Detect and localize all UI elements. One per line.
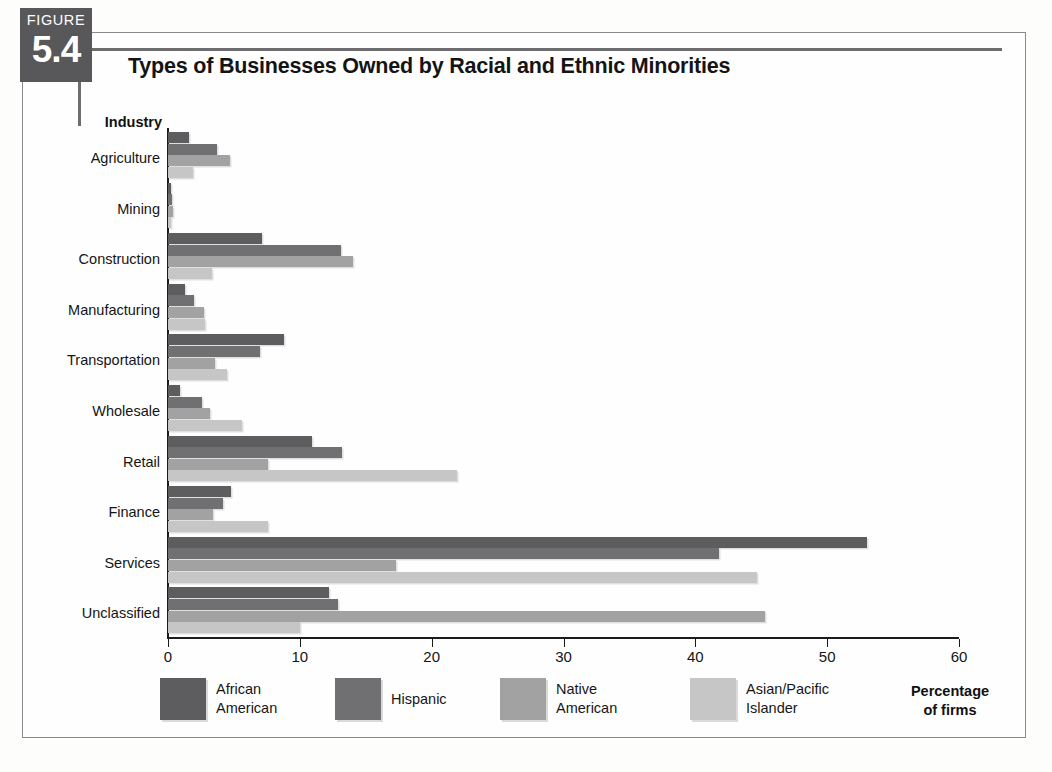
x-axis-tick (695, 639, 696, 647)
legend-swatch (160, 678, 206, 720)
chart-bar (168, 183, 171, 194)
chart-bar (168, 307, 204, 318)
y-axis-category-label: Finance (10, 504, 160, 520)
y-axis-category-label: Transportation (10, 352, 160, 368)
y-axis-category-label: Services (10, 555, 160, 571)
badge-stem (78, 82, 81, 126)
y-axis-category-label: Retail (10, 454, 160, 470)
chart-bar (168, 334, 284, 345)
x-axis-tick-label: 60 (951, 648, 968, 665)
x-axis-tick (300, 639, 301, 647)
x-axis-caption-line1: Percentage (880, 682, 1020, 701)
chart-bar (168, 295, 194, 306)
figure-page: FIGURE 5.4 Types of Businesses Owned by … (0, 0, 1052, 772)
chart-bar (168, 498, 223, 509)
chart-bar (168, 397, 202, 408)
x-axis-caption: Percentage of firms (880, 682, 1020, 720)
chart-bar (168, 144, 217, 155)
x-axis-tick (827, 639, 828, 647)
figure-badge: FIGURE 5.4 (20, 8, 92, 82)
chart-bar (168, 385, 180, 396)
legend-label: AfricanAmerican (216, 680, 277, 718)
figure-number: 5.4 (20, 28, 92, 72)
chart-bar (168, 560, 396, 571)
chart-bar (168, 268, 212, 279)
legend-label-line2: American (216, 699, 277, 718)
legend-swatch (690, 678, 736, 720)
legend-label-line2: American (556, 699, 617, 718)
chart-bar (168, 167, 193, 178)
figure-word: FIGURE (20, 12, 92, 28)
x-axis-caption-line2: of firms (880, 701, 1020, 720)
chart-bar (168, 217, 171, 228)
chart-bar (168, 587, 329, 598)
legend-swatch (335, 678, 381, 720)
chart-bar (168, 521, 268, 532)
y-axis-category-label: Mining (10, 201, 160, 217)
chart-bar (168, 599, 338, 610)
chart-bar (168, 486, 231, 497)
y-axis-category-label: Construction (10, 251, 160, 267)
x-axis-tick-label: 50 (819, 648, 836, 665)
chart-bar (168, 572, 757, 583)
chart-bar (168, 622, 300, 633)
chart-bar (168, 256, 353, 267)
x-axis-tick (168, 639, 169, 647)
chart-bar (168, 233, 262, 244)
legend-label-line1: Hispanic (391, 690, 447, 709)
x-axis-tick (564, 639, 565, 647)
chart-bar (168, 346, 260, 357)
chart-bar (168, 470, 457, 481)
legend-swatch (500, 678, 546, 720)
chart-bar (168, 436, 312, 447)
chart-bar (168, 548, 719, 559)
chart-bar (168, 537, 867, 548)
y-axis-category-label: Wholesale (10, 403, 160, 419)
x-axis-tick-label: 30 (555, 648, 572, 665)
legend-label-line1: Asian/Pacific (746, 680, 829, 699)
legend-label: Asian/PacificIslander (746, 680, 829, 718)
legend-label-line2: Islander (746, 699, 829, 718)
chart-plot-area: Industry 0102030405060AgricultureMiningC… (0, 0, 1052, 772)
chart-bar (168, 611, 765, 622)
chart-bar (168, 284, 185, 295)
x-axis-tick (432, 639, 433, 647)
axis-header-industry: Industry (100, 114, 162, 130)
chart-bar (168, 369, 227, 380)
y-axis-category-label: Unclassified (10, 605, 160, 621)
chart-bar (168, 420, 242, 431)
legend-label-line1: Native (556, 680, 617, 699)
x-axis-tick-label: 40 (687, 648, 704, 665)
x-axis-tick-label: 10 (291, 648, 308, 665)
legend-label-line1: African (216, 680, 277, 699)
legend-label: NativeAmerican (556, 680, 617, 718)
x-axis-tick (959, 639, 960, 647)
y-axis-category-label: Manufacturing (10, 302, 160, 318)
chart-bar (168, 194, 172, 205)
chart-bar (168, 319, 205, 330)
chart-bar (168, 358, 215, 369)
legend-label: Hispanic (391, 690, 447, 709)
chart-bar (168, 408, 210, 419)
x-axis-tick-label: 0 (164, 648, 172, 665)
chart-bar (168, 509, 213, 520)
chart-bar (168, 459, 268, 470)
chart-bar (168, 206, 173, 217)
chart-bar (168, 132, 189, 143)
y-axis-category-label: Agriculture (10, 150, 160, 166)
chart-bar (168, 245, 341, 256)
x-axis-tick-label: 20 (423, 648, 440, 665)
chart-bar (168, 155, 230, 166)
chart-bar (168, 447, 342, 458)
